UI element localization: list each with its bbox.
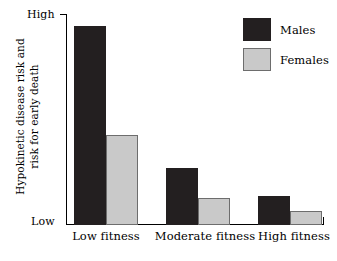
- y-axis-title: Hypokinetic disease risk and risk for ea…: [0, 0, 54, 232]
- y-axis-title-line-1: Hypokinetic disease risk and: [14, 38, 28, 195]
- y-axis-tick-high: [60, 14, 66, 15]
- y-axis-title-line-2: risk for early death: [27, 38, 41, 195]
- legend-item-females: Females: [243, 48, 329, 71]
- legend-swatch-females-icon: [243, 48, 271, 71]
- bar-chart-figure: Hypokinetic disease risk and risk for ea…: [0, 0, 337, 261]
- legend-label-males: Males: [280, 23, 316, 37]
- bar-females-high-fitness: [290, 211, 322, 225]
- legend-item-males: Males: [243, 18, 316, 41]
- bar-males-low-fitness: [74, 26, 106, 225]
- bar-females-moderate-fitness: [198, 198, 230, 225]
- legend-swatch-males-icon: [243, 18, 271, 41]
- y-axis-title-text: Hypokinetic disease risk and risk for ea…: [14, 38, 41, 195]
- bar-males-moderate-fitness: [166, 168, 198, 225]
- x-axis-category-label-low-fitness: Low fitness: [66, 229, 146, 243]
- bar-females-low-fitness: [106, 135, 138, 225]
- y-axis-line: [66, 14, 67, 225]
- x-axis-category-label-high-fitness: High fitness: [252, 229, 336, 243]
- bar-males-high-fitness: [258, 196, 290, 225]
- y-axis-high-label: High: [27, 8, 55, 21]
- x-axis-category-label-moderate-fitness: Moderate fitness: [150, 229, 260, 243]
- legend-label-females: Females: [280, 53, 329, 67]
- x-axis-tick-right-end: [323, 217, 324, 225]
- y-axis-low-label: Low: [31, 215, 55, 228]
